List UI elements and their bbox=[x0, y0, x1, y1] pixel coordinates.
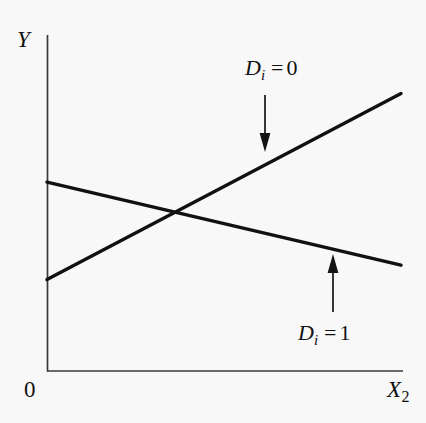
y-axis-label: Y bbox=[17, 28, 30, 51]
chart-plot-area bbox=[0, 0, 426, 423]
annotation-d1-value: 1 bbox=[339, 320, 350, 345]
x-axis-label-subscript: 2 bbox=[402, 388, 410, 405]
series-annotation-d1: Di=1 bbox=[298, 322, 350, 348]
x-axis-label: X2 bbox=[387, 378, 410, 405]
x-axis-label-variable: X bbox=[387, 377, 401, 402]
annotation-d0-subscript: i bbox=[261, 67, 265, 83]
arrow-up-icon bbox=[328, 254, 339, 312]
annotation-d1-equals: = bbox=[324, 320, 336, 345]
annotation-d0-equals: = bbox=[271, 55, 283, 80]
annotation-d1-variable: D bbox=[298, 320, 314, 345]
chart-figure: Y 0 X2 Di=0 Di=1 bbox=[0, 0, 426, 423]
arrow-down-icon bbox=[260, 95, 271, 152]
series-annotation-d0: Di=0 bbox=[245, 57, 297, 83]
annotation-d1-subscript: i bbox=[314, 332, 318, 348]
annotation-d0-variable: D bbox=[245, 55, 261, 80]
origin-label: 0 bbox=[24, 378, 36, 401]
annotation-d0-value: 0 bbox=[286, 55, 297, 80]
